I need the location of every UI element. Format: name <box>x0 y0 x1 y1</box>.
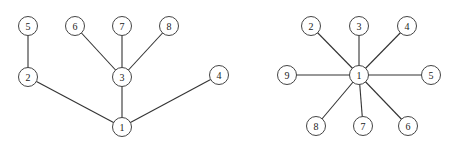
node-5: 5 <box>422 66 441 85</box>
node-label: 6 <box>73 21 78 32</box>
node-9: 9 <box>278 66 297 85</box>
node-label: 8 <box>167 21 172 32</box>
node-label: 9 <box>285 70 290 81</box>
node-8: 8 <box>160 17 179 36</box>
node-label: 8 <box>314 121 319 132</box>
edge-1-4 <box>359 26 407 75</box>
node-5: 5 <box>19 17 38 36</box>
star-right: 123456789 <box>278 17 441 136</box>
node-label: 1 <box>357 70 362 81</box>
node-label: 3 <box>120 72 125 83</box>
node-1: 1 <box>113 118 132 137</box>
node-label: 6 <box>406 121 411 132</box>
node-1: 1 <box>350 66 369 85</box>
node-4: 4 <box>398 17 417 36</box>
node-label: 5 <box>429 70 434 81</box>
node-label: 5 <box>26 21 31 32</box>
edge-1-2 <box>28 77 122 127</box>
node-label: 2 <box>26 72 31 83</box>
node-2: 2 <box>302 17 321 36</box>
node-label: 7 <box>120 21 125 32</box>
edge-1-8 <box>316 75 359 126</box>
node-8: 8 <box>307 117 326 136</box>
node-label: 4 <box>217 70 222 81</box>
node-4: 4 <box>210 66 229 85</box>
node-3: 3 <box>113 68 132 87</box>
edge-1-2 <box>311 26 359 75</box>
node-label: 1 <box>120 122 125 133</box>
node-label: 2 <box>309 21 314 32</box>
node-6: 6 <box>399 117 418 136</box>
node-label: 7 <box>361 121 366 132</box>
node-label: 4 <box>405 21 410 32</box>
node-label: 3 <box>357 21 362 32</box>
tree-left: 12345678 <box>19 17 229 137</box>
node-3: 3 <box>350 17 369 36</box>
diagram-canvas: 12345678 123456789 <box>0 0 456 144</box>
edge-3-8 <box>122 26 169 77</box>
node-2: 2 <box>19 68 38 87</box>
edge-3-6 <box>75 26 122 77</box>
node-7: 7 <box>354 117 373 136</box>
node-6: 6 <box>66 17 85 36</box>
edge-1-4 <box>122 75 219 127</box>
node-7: 7 <box>113 17 132 36</box>
